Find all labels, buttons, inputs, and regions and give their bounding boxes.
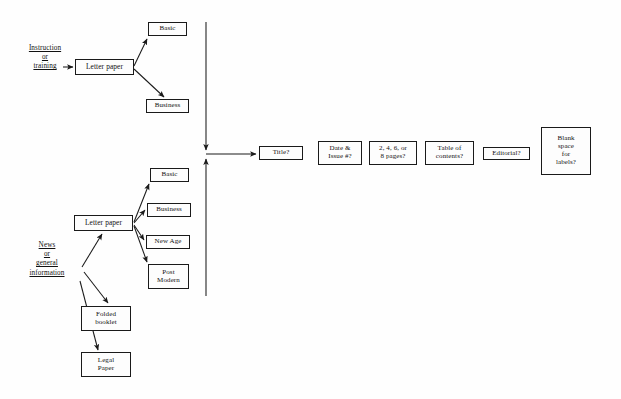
node-label: Blank space for labels? [542, 135, 590, 166]
source-line: or [12, 250, 82, 259]
source-line: Instruction [14, 44, 76, 53]
arrow-news-to-letter-paper [82, 234, 102, 267]
arrow-letter-paper-to-new-age [134, 225, 144, 240]
arrow-letter-top-to-business [134, 69, 164, 97]
node-label: Letter paper [76, 63, 133, 71]
node-label: Letter paper [75, 219, 132, 227]
node-date-issue-question[interactable]: Date & Issue #? [318, 141, 362, 165]
node-label: Basic [151, 171, 188, 179]
node-new-age[interactable]: New Age [146, 235, 190, 249]
node-label: Folded booklet [82, 311, 130, 327]
node-label: Editorial? [484, 150, 529, 158]
source-label-instruction: Instruction or training [14, 44, 76, 72]
node-basic-top[interactable]: Basic [148, 22, 187, 36]
node-label: Business [148, 206, 190, 214]
node-folded-booklet[interactable]: Folded booklet [81, 306, 131, 331]
arrow-letter-top-to-basic [134, 39, 147, 66]
node-blank-space-question[interactable]: Blank space for labels? [541, 127, 591, 175]
source-line: News [12, 241, 82, 250]
node-pages-question[interactable]: 2, 4, 6, or 8 pages? [369, 141, 417, 165]
node-editorial-question[interactable]: Editorial? [483, 147, 530, 160]
node-label: New Age [147, 238, 189, 246]
source-line: general [12, 259, 82, 268]
node-label: Title? [260, 149, 302, 157]
node-post-modern[interactable]: Post Modern [148, 264, 189, 289]
node-table-of-contents-question[interactable]: Table of contents? [425, 141, 474, 165]
node-title-question[interactable]: Title? [259, 146, 303, 160]
source-line: or [14, 53, 76, 62]
flowchart-canvas: Instruction or training News or general … [0, 0, 621, 399]
node-basic-bottom[interactable]: Basic [150, 168, 189, 182]
node-label: Legal Paper [82, 357, 130, 373]
node-legal-paper[interactable]: Legal Paper [81, 352, 131, 377]
node-label: 2, 4, 6, or 8 pages? [370, 145, 416, 161]
source-line: information [12, 269, 82, 278]
source-label-news: News or general information [12, 241, 82, 278]
node-business-bottom[interactable]: Business [147, 203, 191, 217]
node-letter-paper-bottom[interactable]: Letter paper [74, 215, 133, 231]
node-label: Business [147, 102, 188, 110]
node-letter-paper-top[interactable]: Letter paper [75, 59, 134, 75]
node-label: Basic [149, 25, 186, 33]
node-label: Table of contents? [426, 145, 473, 161]
node-business-top[interactable]: Business [146, 99, 189, 113]
arrow-news-to-folded-booklet [84, 272, 108, 303]
source-line: training [14, 62, 76, 71]
node-label: Post Modern [149, 269, 188, 285]
node-label: Date & Issue #? [319, 145, 361, 161]
